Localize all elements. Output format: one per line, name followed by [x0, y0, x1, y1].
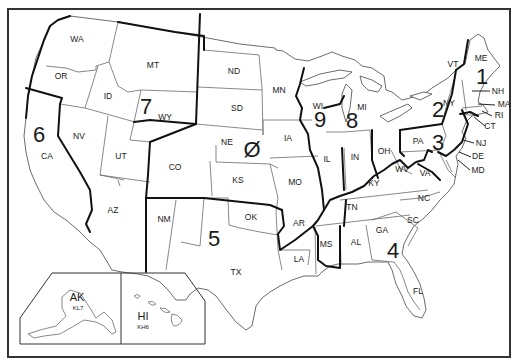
- state-label-in: IN: [351, 152, 360, 162]
- state-label-mo: MO: [288, 177, 302, 187]
- call-district-map: 1 2 3 4 5 6 7 8 9 Ø WA OR CA NV ID MT WY…: [0, 0, 525, 364]
- state-label-ia: IA: [284, 133, 292, 143]
- state-label-or: OR: [55, 71, 68, 81]
- state-label-ks: KS: [232, 175, 244, 185]
- state-label-md: MD: [471, 165, 484, 175]
- hawaii-label: HI: [138, 310, 149, 322]
- district-5: 5: [208, 226, 220, 251]
- state-label-wi: WI: [313, 101, 323, 111]
- state-label-la: LA: [294, 254, 305, 264]
- state-label-nd: ND: [228, 66, 240, 76]
- state-label-id: ID: [104, 91, 113, 101]
- state-label-va: VA: [420, 168, 431, 178]
- district-4: 4: [387, 238, 399, 263]
- state-label-mt: MT: [147, 60, 159, 70]
- state-label-al: AL: [351, 237, 362, 247]
- hawaii-prefix: KH6: [137, 324, 149, 330]
- state-label-ca: CA: [41, 151, 53, 161]
- alaska-prefix: KL7: [73, 305, 84, 311]
- district-3: 3: [432, 130, 444, 155]
- state-label-tx: TX: [231, 267, 242, 277]
- state-label-wa: WA: [70, 34, 84, 44]
- district-0: Ø: [243, 137, 260, 162]
- state-label-sc: SC: [407, 215, 419, 225]
- state-label-mn: MN: [272, 85, 285, 95]
- state-label-wv: WV: [395, 164, 409, 174]
- state-label-pa: PA: [413, 136, 424, 146]
- state-label-az: AZ: [108, 205, 119, 215]
- state-label-sd: SD: [231, 103, 243, 113]
- state-label-ar: AR: [293, 218, 305, 228]
- state-label-tn: TN: [346, 202, 357, 212]
- state-label-nv: NV: [73, 131, 85, 141]
- district-1: 1: [476, 64, 488, 89]
- state-label-de: DE: [472, 151, 484, 161]
- state-label-co: CO: [169, 162, 182, 172]
- state-label-il: IL: [323, 154, 330, 164]
- state-label-ne: NE: [221, 137, 233, 147]
- state-label-nj: NJ: [476, 138, 486, 148]
- state-label-ma: MA: [498, 99, 511, 109]
- state-label-oh: OH: [378, 146, 391, 156]
- state-label-ok: OK: [245, 212, 258, 222]
- state-label-nc: NC: [418, 193, 430, 203]
- state-label-mi: MI: [357, 102, 366, 112]
- alaska-label: AK: [70, 291, 85, 303]
- state-label-ky: KY: [368, 178, 380, 188]
- state-label-nm: NM: [157, 214, 170, 224]
- state-label-wy: WY: [158, 112, 172, 122]
- state-label-ms: MS: [320, 239, 333, 249]
- state-label-ny: NY: [443, 98, 455, 108]
- state-label-ga: GA: [376, 225, 389, 235]
- state-label-ut: UT: [115, 151, 126, 161]
- district-6: 6: [33, 122, 45, 147]
- state-label-me: ME: [475, 53, 488, 63]
- state-label-vt: VT: [448, 59, 459, 69]
- district-7: 7: [140, 94, 152, 119]
- state-label-ri: RI: [495, 110, 504, 120]
- state-label-fl: FL: [413, 286, 423, 296]
- state-label-ct: CT: [484, 121, 495, 131]
- state-label-nh: NH: [492, 86, 504, 96]
